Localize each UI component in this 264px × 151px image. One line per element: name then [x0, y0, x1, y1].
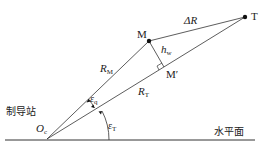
- label-oc: Oc: [36, 123, 47, 136]
- point-t: [243, 15, 247, 19]
- label-rm-sub: M: [107, 68, 113, 76]
- label-hw-sub: w: [167, 49, 172, 57]
- line-rm: [47, 41, 149, 139]
- label-t: T: [251, 11, 258, 22]
- label-hw: hw: [161, 44, 172, 57]
- label-rt: RT: [138, 86, 149, 99]
- label-horizontal-plane: 水平面: [214, 127, 244, 137]
- arrow-eps-t: [99, 111, 103, 115]
- label-m-prime-main: M: [166, 68, 176, 80]
- label-oc-sub: c: [44, 128, 47, 136]
- label-delta-r: ΔR: [184, 15, 197, 26]
- label-eps-t-sub: T: [112, 125, 116, 133]
- label-m-prime-mark: ′: [176, 68, 178, 80]
- point-m: [147, 39, 151, 43]
- label-eps-q-sub: q: [94, 98, 98, 106]
- label-rt-sub: T: [145, 91, 149, 99]
- label-rm: RM: [100, 63, 113, 76]
- label-eps-t: εT: [108, 121, 116, 133]
- label-oc-main: O: [36, 122, 44, 134]
- label-rm-main: R: [100, 62, 107, 74]
- label-eps-q: εq: [90, 94, 97, 106]
- label-m-prime: M′: [166, 69, 178, 80]
- label-m: M: [137, 29, 147, 40]
- label-rt-main: R: [138, 85, 145, 97]
- guidance-geometry-diagram: M T ΔR RM hw M′ RT εq εT 制导站 Oc 水平面: [0, 0, 264, 151]
- label-guidance-station: 制导站: [6, 107, 36, 117]
